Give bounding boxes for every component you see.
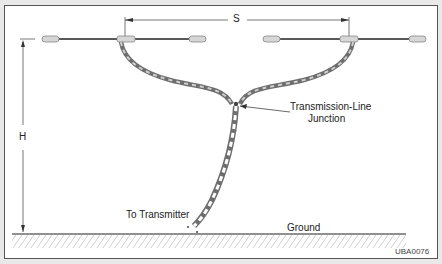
junction-label-line2: Junction (308, 114, 345, 124)
left-dipole (42, 36, 206, 42)
junction-label-line1: Transmission-Line (290, 102, 371, 112)
spacing-label: S (233, 14, 240, 24)
transmitter-label: To Transmitter (126, 210, 189, 220)
insulator-icon (409, 36, 426, 42)
height-label: H (19, 132, 26, 142)
insulator-icon (42, 36, 59, 42)
insulator-icon (117, 36, 135, 42)
insulator-icon (340, 36, 358, 42)
figure-id: UBA0076 (395, 248, 429, 256)
junction-pointer (240, 104, 290, 112)
ground (12, 234, 406, 248)
insulator-icon (263, 36, 280, 42)
ladder-line-left (121, 42, 232, 104)
ladder-line-feed (194, 106, 236, 226)
right-dipole (263, 36, 426, 42)
junction-point (234, 102, 238, 106)
stacked-dipole-diagram (0, 0, 442, 264)
ground-label: Ground (287, 223, 320, 233)
ladder-line-right (240, 42, 353, 104)
insulator-icon (189, 36, 206, 42)
